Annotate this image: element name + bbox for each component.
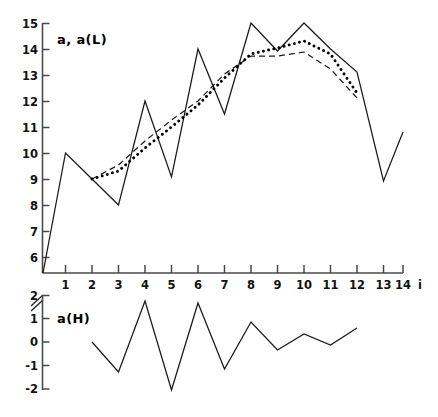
bottom-y-tick-label-neg1: -1	[25, 359, 38, 373]
bottom-y-tick-label-2: 2	[30, 289, 38, 303]
top-y-tick-marks	[43, 24, 50, 258]
top-y-tick-label-6: 6	[30, 251, 38, 265]
bottom-y-tick-marks	[43, 296, 50, 390]
top-x-tick-label-6: 6	[194, 278, 202, 292]
top-x-tick-label-3: 3	[114, 278, 122, 292]
top-x-tick-label-4: 4	[141, 278, 149, 292]
bottom-panel: 2 1 0 -1 -2 a(H)	[25, 289, 357, 396]
top-x-tick-label-13: 13	[375, 278, 391, 292]
bottom-y-tick-label-0: 0	[30, 335, 38, 349]
top-y-tick-label-13: 13	[22, 69, 38, 83]
top-x-tick-label-10: 10	[296, 278, 312, 292]
top-x-tick-label-12: 12	[349, 278, 365, 292]
top-x-tick-marks	[66, 265, 404, 273]
chart-canvas: 15 14 13 12 11 10 9 8 7 6 a, a(L)	[0, 0, 438, 417]
top-panel: 15 14 13 12 11 10 9 8 7 6 a, a(L)	[22, 17, 422, 292]
top-x-tick-label-11: 11	[322, 278, 338, 292]
top-y-tick-label-9: 9	[30, 173, 38, 187]
top-y-tick-label-14: 14	[22, 43, 38, 57]
series-aH-solid	[92, 301, 357, 390]
top-x-tick-label-5: 5	[167, 278, 175, 292]
top-y-tick-label-11: 11	[22, 121, 38, 135]
top-x-tick-label-9: 9	[273, 278, 281, 292]
figure-root: 15 14 13 12 11 10 9 8 7 6 a, a(L)	[0, 0, 438, 417]
top-panel-caption: a, a(L)	[57, 32, 107, 47]
top-y-tick-label-10: 10	[22, 147, 38, 161]
series-aL-dotted	[92, 41, 357, 179]
top-x-tick-label-8: 8	[247, 278, 255, 292]
bottom-y-tick-label-neg2: -2	[25, 382, 38, 396]
top-y-tick-label-8: 8	[30, 199, 38, 213]
series-a-solid	[43, 23, 403, 273]
top-y-tick-label-12: 12	[22, 95, 38, 109]
top-x-tick-label-1: 1	[61, 278, 69, 292]
top-x-axis-label: i	[418, 278, 422, 292]
top-y-tick-label-7: 7	[30, 225, 38, 239]
top-x-tick-label-2: 2	[88, 278, 96, 292]
bottom-y-tick-label-1: 1	[30, 312, 38, 326]
top-y-tick-label-15: 15	[22, 17, 38, 31]
top-x-tick-label-7: 7	[220, 278, 228, 292]
bottom-panel-caption: a(H)	[57, 311, 90, 326]
top-x-tick-label-14: 14	[395, 278, 411, 292]
